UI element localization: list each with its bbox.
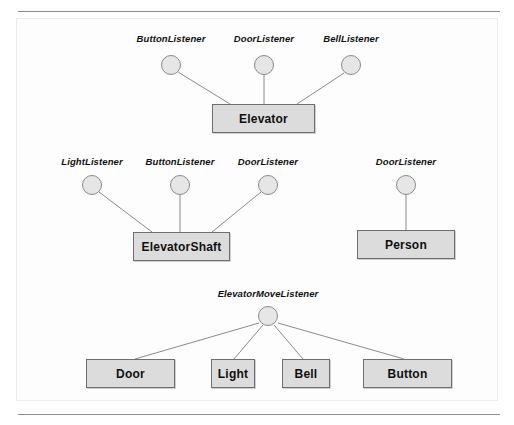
diagram-frame	[16, 18, 498, 401]
lollipop-belllistener-elevator[interactable]	[341, 55, 361, 75]
interface-label-doorlistener-person: DoorListener	[376, 156, 436, 167]
top-divider-rule	[18, 11, 500, 12]
class-box-light[interactable]: Light	[211, 359, 255, 388]
class-box-person[interactable]: Person	[357, 230, 455, 259]
lollipop-doorlistener-person[interactable]	[396, 175, 416, 195]
interface-label-lightlistener-shaft: LightListener	[61, 156, 122, 167]
lollipop-buttonlistener-shaft[interactable]	[170, 175, 190, 195]
interface-label-doorlistener-elevator: DoorListener	[234, 33, 294, 44]
lollipop-elevatormovelistener[interactable]	[258, 306, 278, 326]
lollipop-doorlistener-elevator[interactable]	[254, 55, 274, 75]
lollipop-doorlistener-shaft[interactable]	[258, 175, 278, 195]
class-box-bell[interactable]: Bell	[282, 359, 330, 388]
lollipop-buttonlistener-elevator[interactable]	[161, 55, 181, 75]
diagram-page: ButtonListener DoorListener BellListener…	[0, 0, 514, 425]
class-box-elevator[interactable]: Elevator	[212, 104, 315, 133]
bottom-divider-rule	[18, 414, 500, 415]
interface-label-buttonlistener-elevator: ButtonListener	[137, 33, 206, 44]
interface-label-buttonlistener-shaft: ButtonListener	[146, 156, 215, 167]
interface-label-doorlistener-shaft: DoorListener	[238, 156, 298, 167]
class-box-door[interactable]: Door	[86, 359, 175, 388]
class-box-elevatorshaft[interactable]: ElevatorShaft	[133, 232, 230, 261]
interface-label-belllistener-elevator: BellListener	[323, 33, 379, 44]
class-box-button[interactable]: Button	[363, 359, 452, 388]
lollipop-lightlistener-shaft[interactable]	[82, 175, 102, 195]
interface-label-elevatormovelistener: ElevatorMoveListener	[218, 288, 319, 299]
